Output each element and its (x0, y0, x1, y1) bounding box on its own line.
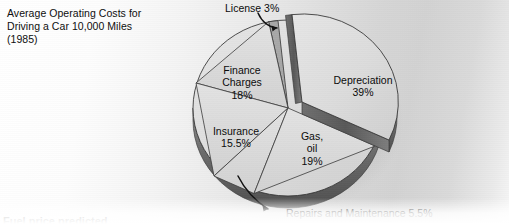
label-depreciation-value: 39% (320, 86, 406, 98)
label-depreciation-name: Depreciation (320, 74, 406, 86)
label-insurance-name: Insurance (197, 125, 275, 137)
label-depreciation: Depreciation 39% (320, 74, 406, 99)
chart-title-line-3: (1985) (7, 33, 192, 46)
label-finance-charges-line-2: Charges (204, 76, 280, 88)
label-gas-oil-value: 19% (286, 155, 338, 167)
label-finance-charges: Finance Charges 18% (204, 64, 280, 101)
chart-title-line-1: Average Operating Costs for (7, 7, 192, 20)
chart-title: Average Operating Costs for Driving a Ca… (7, 7, 192, 47)
chart-title-line-2: Driving a Car 10,000 Miles (7, 20, 192, 33)
footer-text: Fuel price predicted (3, 215, 108, 224)
label-gas-oil-line-2: oil (286, 142, 338, 154)
label-insurance-value: 15.5% (197, 137, 275, 149)
label-license: License 3% (225, 2, 279, 14)
label-gas-oil: Gas, oil 19% (286, 130, 338, 167)
label-insurance: Insurance 15.5% (197, 125, 275, 150)
figure-canvas: Average Operating Costs for Driving a Ca… (0, 0, 509, 224)
label-finance-charges-value: 18% (204, 89, 280, 101)
label-repairs-maintenance: Repairs and Maintenance 5.5% (286, 207, 433, 219)
label-gas-oil-line-1: Gas, (286, 130, 338, 142)
label-finance-charges-line-1: Finance (204, 64, 280, 76)
